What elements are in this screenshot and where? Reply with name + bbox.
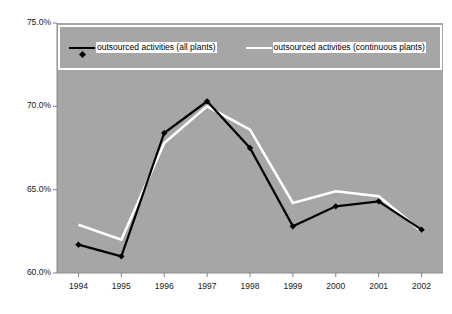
- line-chart: 75.0%70.0%65.0%60.0% 1994199519961997199…: [0, 0, 452, 314]
- y-tick-label: 65.0%: [27, 184, 51, 194]
- x-tick-label: 1995: [101, 281, 141, 291]
- x-axis-ticks: [78, 273, 421, 277]
- x-tick-label: 1996: [144, 281, 184, 291]
- x-tick-label: 1999: [273, 281, 313, 291]
- y-tick-label: 60.0%: [27, 267, 51, 277]
- x-tick-label: 1994: [58, 281, 98, 291]
- x-tick-label: 1997: [187, 281, 227, 291]
- chart-legend: outsourced activities (all plants) outso…: [58, 25, 442, 70]
- legend-swatch-continuous-plants: [246, 42, 272, 53]
- legend-entry-continuous-plants: outsourced activities (continuous plants…: [246, 42, 426, 53]
- y-tick-label: 70.0%: [27, 100, 51, 110]
- legend-entry-all-plants: outsourced activities (all plants): [69, 42, 217, 53]
- x-tick-label: 1998: [230, 281, 270, 291]
- y-axis-ticks: [53, 23, 57, 273]
- x-tick-label: 2000: [316, 281, 356, 291]
- x-tick-label: 2001: [359, 281, 399, 291]
- x-tick-label: 2002: [402, 281, 442, 291]
- y-tick-label: 75.0%: [27, 17, 51, 27]
- legend-label-all-plants: outsourced activities (all plants): [96, 42, 217, 53]
- legend-line-sample-white: [246, 47, 272, 49]
- legend-swatch-all-plants: [69, 42, 95, 53]
- legend-marker-diamond: [79, 44, 86, 51]
- legend-label-continuous-plants: outsourced activities (continuous plants…: [273, 42, 426, 53]
